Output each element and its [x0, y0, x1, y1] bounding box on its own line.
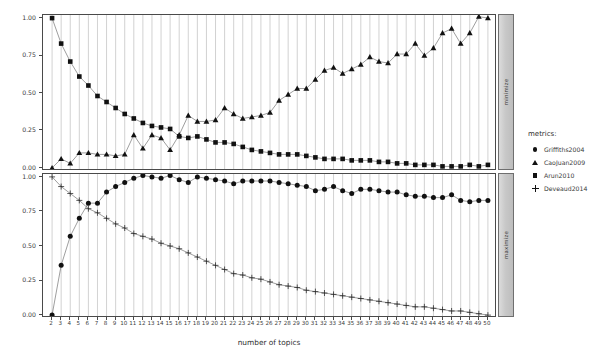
legend-item[interactable]: Griffiths2004	[528, 143, 587, 156]
legend-item[interactable]: Arun2010	[528, 169, 587, 182]
legend-item-label: Arun2010	[544, 172, 574, 179]
plot-area-maximize	[43, 174, 495, 316]
y-tick-label: 0.25	[8, 126, 36, 133]
x-tick-label: 34	[338, 320, 345, 326]
x-tick-label: 40	[393, 320, 400, 326]
x-tick-label: 24	[247, 320, 254, 326]
strip-minimize: minimize	[498, 14, 514, 170]
y-tick-mark	[39, 210, 42, 211]
y-tick-mark	[39, 167, 42, 168]
y-tick-mark	[39, 17, 42, 18]
x-tick-label: 19	[202, 320, 209, 326]
x-tick-label: 23	[238, 320, 245, 326]
x-tick-label: 36	[356, 320, 363, 326]
x-tick-label: 44	[429, 320, 436, 326]
legend-title: metrics:	[528, 130, 587, 138]
x-tick-label: 30	[302, 320, 309, 326]
y-tick-label: 1.00	[8, 173, 36, 180]
chart-root: 0.000.250.500.751.00minimize0.000.250.50…	[0, 0, 609, 348]
x-tick-label: 41	[402, 320, 409, 326]
panel-minimize	[42, 14, 496, 170]
x-tick-label: 32	[320, 320, 327, 326]
legend-item[interactable]: Deveaud2014	[528, 182, 587, 195]
strip-label-maximize: maximize	[503, 231, 509, 259]
x-tick-label: 2	[49, 320, 53, 326]
x-tick-label: 5	[77, 320, 81, 326]
x-tick-label: 17	[184, 320, 191, 326]
legend-item-label: Deveaud2014	[544, 185, 587, 192]
x-tick-label: 35	[347, 320, 354, 326]
x-tick-label: 10	[120, 320, 127, 326]
strip-label-minimize: minimize	[503, 79, 509, 106]
x-tick-label: 29	[293, 320, 300, 326]
x-tick-label: 42	[411, 320, 418, 326]
plot-canvas-maximize	[43, 174, 495, 316]
legend-key-circle-marker	[528, 147, 542, 151]
legend-key-triangle-marker	[528, 160, 542, 165]
y-tick-label: 0.50	[8, 89, 36, 96]
x-tick-label: 46	[447, 320, 454, 326]
square-marker	[533, 173, 537, 177]
circle-marker	[533, 147, 537, 151]
x-tick-label: 47	[456, 320, 463, 326]
y-tick-label: 0.00	[8, 311, 36, 318]
triangle-marker	[532, 160, 538, 165]
x-tick-label: 8	[104, 320, 108, 326]
x-tick-label: 16	[175, 320, 182, 326]
legend-item-label: Griffiths2004	[544, 146, 584, 153]
legend-item[interactable]: CaoJuan2009	[528, 156, 587, 169]
panel-maximize	[42, 173, 496, 317]
plot-area-minimize	[43, 15, 495, 169]
plus-marker	[532, 185, 539, 192]
y-tick-mark	[39, 129, 42, 130]
y-tick-label: 0.75	[8, 51, 36, 58]
x-tick-label: 39	[383, 320, 390, 326]
x-tick-label: 9	[113, 320, 117, 326]
x-tick-label: 48	[465, 320, 472, 326]
y-tick-label: 0.00	[8, 164, 36, 171]
x-tick-label: 43	[420, 320, 427, 326]
strip-maximize: maximize	[498, 173, 514, 317]
legend-item-label: CaoJuan2009	[544, 159, 585, 166]
y-tick-label: 1.00	[8, 14, 36, 21]
x-tick-label: 38	[374, 320, 381, 326]
x-tick-label: 37	[365, 320, 372, 326]
legend-key-plus-marker	[528, 185, 542, 192]
x-tick-label: 13	[147, 320, 154, 326]
y-tick-mark	[39, 280, 42, 281]
x-tick-label: 7	[95, 320, 99, 326]
x-tick-label: 50	[483, 320, 490, 326]
x-tick-label: 12	[138, 320, 145, 326]
x-tick-label: 21	[220, 320, 227, 326]
y-tick-mark	[39, 55, 42, 56]
x-tick-label: 4	[67, 320, 71, 326]
x-tick-label: 27	[275, 320, 282, 326]
y-tick-label: 0.75	[8, 207, 36, 214]
x-tick-label: 15	[166, 320, 173, 326]
x-tick-label: 31	[311, 320, 318, 326]
legend-key-square-marker	[528, 173, 542, 177]
x-tick-label: 18	[193, 320, 200, 326]
x-tick-label: 14	[156, 320, 163, 326]
y-tick-mark	[39, 314, 42, 315]
plot-canvas-minimize	[43, 15, 495, 169]
y-tick-label: 0.25	[8, 276, 36, 283]
x-tick-label: 22	[229, 320, 236, 326]
x-tick-label: 49	[474, 320, 481, 326]
x-tick-label: 20	[211, 320, 218, 326]
x-tick-label: 33	[329, 320, 336, 326]
legend: metrics:Griffiths2004CaoJuan2009Arun2010…	[528, 130, 587, 195]
x-tick-label: 28	[284, 320, 291, 326]
x-tick-label: 3	[58, 320, 62, 326]
y-tick-label: 0.50	[8, 242, 36, 249]
gridlines-minimize	[52, 15, 488, 169]
y-tick-mark	[39, 176, 42, 177]
x-tick-label: 25	[256, 320, 263, 326]
y-tick-mark	[39, 92, 42, 93]
x-tick-label: 11	[129, 320, 136, 326]
y-tick-mark	[39, 245, 42, 246]
x-tick-label: 6	[86, 320, 90, 326]
x-axis-title: number of topics	[238, 338, 301, 347]
x-tick-label: 26	[265, 320, 272, 326]
x-tick-label: 45	[438, 320, 445, 326]
